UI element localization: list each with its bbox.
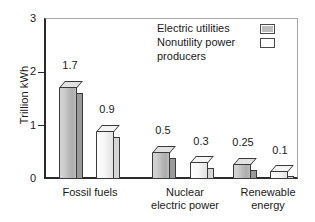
bar-front xyxy=(233,164,251,179)
bar-nuclear-electric-utilities xyxy=(152,152,170,179)
y-tick-label-0-wrap: 0 xyxy=(0,173,36,184)
bar-fossil-fuels-electric-utilities xyxy=(59,87,77,179)
bar-front xyxy=(96,131,114,179)
legend-swatch-nonutility-power-producers-icon xyxy=(260,38,275,48)
x-tick-label-renewable-energy: Renewable energy xyxy=(228,186,308,212)
legend-swatch-electric-utilities-icon xyxy=(260,24,275,34)
x-tick-label-fossil-fuels: Fossil fuels xyxy=(45,186,135,199)
bar-front xyxy=(59,87,77,179)
y-axis-title: Trillion kWh xyxy=(18,40,30,150)
bar-front xyxy=(190,162,208,179)
bar-side xyxy=(288,176,294,179)
bar-nuclear-nonutility xyxy=(190,162,208,179)
y-tick-label-2-wrap: 2 xyxy=(0,66,36,77)
bar-renewable-electric-utilities xyxy=(233,164,251,179)
bar-side xyxy=(251,170,257,179)
legend: Electric utilities Nonutility power prod… xyxy=(157,22,275,63)
legend-item-electric-utilities: Electric utilities xyxy=(157,22,275,36)
bar-front xyxy=(270,171,288,179)
bar-value-renewable-electric-utilities: 0.25 xyxy=(226,137,260,148)
y-tick-label-3: 3 xyxy=(8,13,36,24)
bar-side xyxy=(208,168,214,179)
bar-value-fossil-fuels-electric-utilities: 1.7 xyxy=(55,60,85,71)
y-tick-label-3-wrap: 3 xyxy=(0,13,36,24)
bar-value-nuclear-electric-utilities: 0.5 xyxy=(148,125,178,136)
bar-front xyxy=(152,152,170,179)
legend-label-nonutility-power-producers: Nonutility power producers xyxy=(157,36,275,63)
y-tick-label-1: 1 xyxy=(8,120,36,131)
x-tick-label-nuclear-electric-power: Nuclear electric power xyxy=(135,186,235,212)
bar-fossil-fuels-nonutility xyxy=(96,131,114,179)
bar-renewable-nonutility xyxy=(270,171,288,179)
bar-value-fossil-fuels-nonutility: 0.9 xyxy=(92,104,122,115)
bar-side xyxy=(114,137,120,179)
bar-side xyxy=(77,93,83,179)
legend-item-nonutility-power-producers: Nonutility power producers xyxy=(157,36,275,63)
legend-label-electric-utilities: Electric utilities xyxy=(157,22,275,36)
y-tick-label-0: 0 xyxy=(8,173,36,184)
y-tick-label-2: 2 xyxy=(8,66,36,77)
y-tick-label-1-wrap: 1 xyxy=(0,120,36,131)
bar-chart: Trillion kWh 3 2 1 0 1.7 0.9 0.5 xyxy=(0,0,315,222)
bar-side xyxy=(170,158,176,179)
bar-value-nuclear-nonutility: 0.3 xyxy=(186,136,216,147)
bar-value-renewable-nonutility: 0.1 xyxy=(265,145,295,156)
